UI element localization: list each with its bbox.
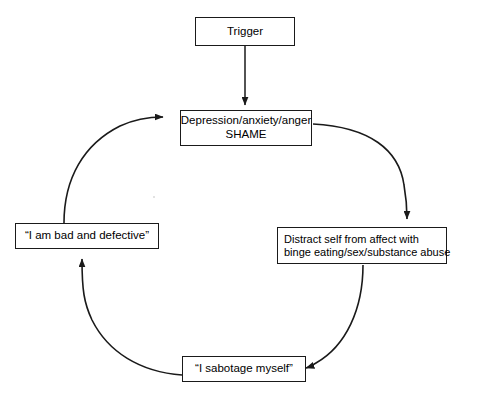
edge-affect-to-distract xyxy=(313,124,407,219)
flow-arrows-layer xyxy=(0,0,478,409)
edge-belief-to-affect xyxy=(64,117,163,223)
node-belief[interactable]: “I am bad and defective” xyxy=(15,223,159,249)
edge-sabotage-to-belief xyxy=(82,259,182,375)
node-sabotage-line-0: “I sabotage myself” xyxy=(195,362,293,376)
node-distract[interactable]: Distract self from affect with binge eat… xyxy=(277,227,447,264)
scan-speckle xyxy=(153,196,155,198)
node-trigger[interactable]: Trigger xyxy=(195,17,295,46)
node-affect-line-0: Depression/anxiety/anger xyxy=(181,114,311,128)
node-affect[interactable]: Depression/anxiety/anger SHAME xyxy=(180,110,312,146)
node-trigger-line-0: Trigger xyxy=(227,25,263,39)
diagram-canvas: Trigger Depression/anxiety/anger SHAME D… xyxy=(0,0,478,409)
node-distract-line-0: Distract self from affect with xyxy=(284,233,419,246)
edge-distract-to-sabotage xyxy=(306,265,363,368)
node-distract-line-1: binge eating/sex/substance abuse xyxy=(284,246,450,259)
node-sabotage[interactable]: “I sabotage myself” xyxy=(182,356,306,382)
node-belief-line-0: “I am bad and defective” xyxy=(25,229,149,243)
node-affect-line-1: SHAME xyxy=(226,128,267,142)
